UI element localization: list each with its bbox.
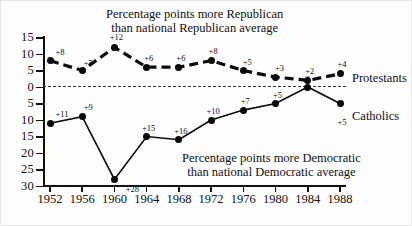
catholics-point: [337, 100, 344, 107]
protestants-value-label: +3: [275, 64, 284, 73]
caption-republican: Percentage points more Republican than n…: [106, 8, 283, 35]
legend-label-protestants: Protestants: [352, 72, 407, 85]
catholics-value-label: 0: [306, 75, 310, 84]
protestants-point: [111, 44, 118, 51]
catholics-value-label: +15: [142, 124, 155, 133]
protestants-value-label: +5: [243, 58, 252, 67]
caption-democratic-line1: Percentage points more Democratic: [182, 152, 361, 166]
catholics-point: [304, 84, 311, 91]
catholics-point: [47, 120, 54, 127]
legend-label-catholics: Catholics: [352, 110, 399, 123]
catholics-value-label: +5: [273, 91, 282, 100]
protestants-value-label: +8: [209, 47, 218, 56]
catholics-point: [208, 117, 215, 124]
catholics-value-label: +11: [56, 110, 69, 119]
protestants-point: [337, 70, 344, 77]
catholics-point: [240, 107, 247, 114]
protestants-point: [208, 57, 215, 64]
catholics-value-label: +9: [84, 103, 93, 112]
catholics-point: [79, 113, 86, 120]
protestants-value-label: +8: [55, 48, 64, 57]
caption-democratic: Percentage points more Democratic than n…: [182, 152, 361, 179]
protestants-point: [240, 67, 247, 74]
caption-republican-line2: than national Republican average: [106, 22, 283, 36]
protestants-value-label: +5: [84, 59, 93, 68]
protestants-point: [143, 64, 150, 71]
protestants-point: [79, 67, 86, 74]
protestants-point: [47, 57, 54, 64]
caption-democratic-line2: than national Democratic average: [182, 166, 361, 180]
protestants-point: [272, 74, 279, 81]
caption-republican-line1: Percentage points more Republican: [106, 8, 283, 22]
protestants-value-label: +6: [144, 54, 153, 63]
protestants-value-label: +6: [176, 54, 185, 63]
plot-area: 15105051015202530 1952195619601964196819…: [0, 0, 412, 226]
catholics-point: [272, 100, 279, 107]
protestants-value-label: +4: [337, 60, 346, 69]
catholics-value-label: +10: [206, 107, 219, 116]
catholics-value-label: +16: [174, 127, 187, 136]
catholics-point: [111, 176, 118, 183]
catholics-value-label: +28: [126, 185, 139, 194]
chart-figure: 15105051015202530 1952195619601964196819…: [0, 0, 412, 226]
catholics-value-label: +7: [241, 97, 250, 106]
protestants-line: [50, 47, 340, 80]
catholics-value-label: +5: [337, 118, 346, 127]
